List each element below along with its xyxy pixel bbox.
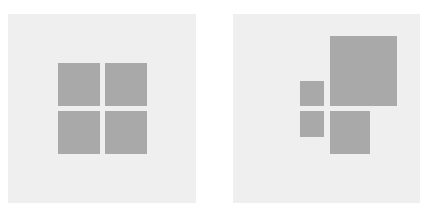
square-bottom-left [58, 111, 100, 154]
square-bottom-right [105, 111, 147, 154]
panel-equal-grid [8, 14, 196, 203]
square-top-right-large [330, 36, 397, 106]
square-top-left [58, 63, 100, 106]
square-top-right [105, 63, 147, 106]
square-top-left-small [300, 81, 324, 106]
square-bottom-right-medium [330, 111, 370, 154]
square-bottom-left-small [300, 111, 324, 137]
